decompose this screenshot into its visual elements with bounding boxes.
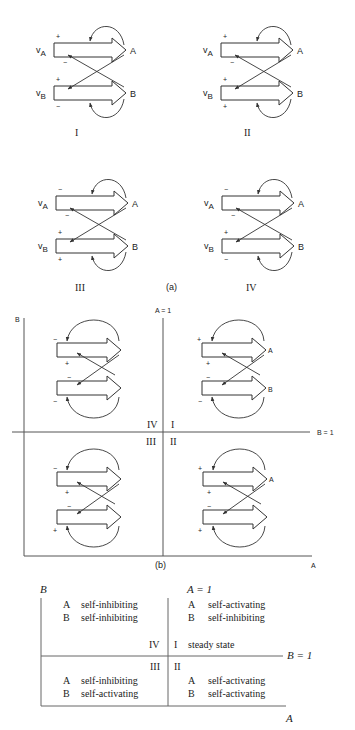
feedback-arrows-icon [57,320,121,418]
panel-a-I: + − + − vA vB A B [36,26,136,117]
input-vb-label: vB [38,241,48,254]
sign-b-top: − [67,503,71,510]
panel-b-II: + + − + A [198,449,274,547]
sign-a-top: + [197,336,201,343]
sign-a-top: − [53,465,57,472]
sign-b-top: + [223,76,227,83]
panel-b-III: − + − + [53,449,121,547]
part-b-caption: (b) [155,560,166,570]
iii-label: III [150,661,160,672]
sign-a-bottom: − [230,59,234,66]
input-vb-label: vB [204,241,214,254]
node-a-label: A [130,46,136,56]
sign-a-top: − [53,336,57,343]
panel-a-II: + − + + vA vB A B [203,26,303,117]
ii-row-b-node: B [188,688,195,699]
quadrant-II-label: II [170,436,177,447]
node-a-label: A [269,476,274,483]
sign-a-top: + [198,465,202,472]
iv-row-a-text: self-inhibiting [81,599,138,610]
panel-a-II-label: II [244,127,251,138]
sign-b-bottom: + [223,103,227,110]
iii-row-a-node: A [63,675,71,686]
feedback-arrows-icon [221,26,293,117]
table-b-equals-1-label: B = 1 [287,649,312,661]
panel-a-IV-label: IV [246,282,257,293]
feedback-arrows-icon [54,26,126,117]
i-note: steady state [188,639,235,650]
ii-row-a-text: self-activating [208,675,265,686]
sign-a-bottom: − [65,212,69,219]
input-va-label: vA [203,45,214,58]
sign-a-bottom: + [65,360,69,367]
iv-row-a-node: A [63,599,71,610]
input-va-label: vA [38,198,49,211]
node-a-label: A [298,199,304,209]
table-a-equals-1-label: A = 1 [186,583,212,595]
sign-b-top: + [224,229,228,236]
quadrant-I-label: I [171,419,174,430]
panel-b-I: + + − − A B [197,320,273,418]
feedback-arrows-icon [202,320,266,418]
node-b-label: B [132,242,138,252]
node-b-label: B [268,386,273,393]
figure-canvas: + − + − vA vB A B I + − + + vA vB A B II… [0,0,355,730]
i-row-a-node: A [188,599,196,610]
sign-b-bottom: − [56,103,60,110]
node-b-label: B [130,89,136,99]
node-a-label: A [297,46,303,56]
node-a-label: A [132,199,138,209]
sign-a-top: − [58,186,62,193]
feedback-arrows-icon [57,449,121,547]
sign-b-top: − [206,374,210,381]
iii-row-b-text: self-activating [81,688,138,699]
node-a-label: A [268,347,273,354]
feedback-arrows-icon [222,179,294,270]
ii-row-b-text: self-activating [208,688,265,699]
part-a-caption: (a) [166,282,177,292]
feedback-arrows-icon [56,179,128,270]
iii-row-a-text: self-inhibiting [81,675,138,686]
sign-b-bottom: − [224,256,228,263]
node-b-label: B [298,242,304,252]
b-equals-1-label: B = 1 [317,429,334,436]
sign-a-top: + [223,33,227,40]
panel-a-I-label: I [75,127,78,138]
quadrant-III-label: III [146,436,156,447]
i-row-b-node: B [188,612,195,623]
sign-b-top: − [207,503,211,510]
panel-a-III: − − + + vA vB A B [38,179,138,270]
iv-label: IV [149,639,160,650]
a-equals-1-label: A = 1 [155,307,171,314]
panel-a-III-label: III [75,282,85,293]
ii-label: II [174,661,181,672]
y-axis-label: B [15,316,20,323]
panel-b-IV: − + − − [53,320,121,418]
i-row-b-text: self-inhibiting [208,612,265,623]
node-b-label: B [297,89,303,99]
sign-b-top: + [56,76,60,83]
sign-a-bottom: − [231,212,235,219]
i-row-a-text: self-activating [208,599,265,610]
input-va-label: vA [204,198,215,211]
table-x-axis-label: A [285,712,293,724]
sign-b-bottom: + [198,527,202,534]
sign-a-bottom: + [207,489,211,496]
sign-b-bottom: + [58,256,62,263]
sign-a-bottom: − [63,59,67,66]
sign-b-top: + [58,229,62,236]
input-vb-label: vB [203,88,213,101]
feedback-arrows-icon [203,449,267,547]
sign-b-bottom: + [53,527,57,534]
quadrant-IV-label: IV [147,419,158,430]
panel-a-IV: − − + − vA vB A B [204,179,304,270]
sign-a-top: + [56,33,60,40]
i-label: I [174,639,177,650]
sign-a-bottom: + [65,489,69,496]
table-y-axis-label: B [40,583,47,595]
input-vb-label: vB [36,88,46,101]
sign-b-top: − [67,374,71,381]
iv-row-b-text: self-inhibiting [81,612,138,623]
input-va-label: vA [36,45,47,58]
iii-row-b-node: B [63,688,70,699]
